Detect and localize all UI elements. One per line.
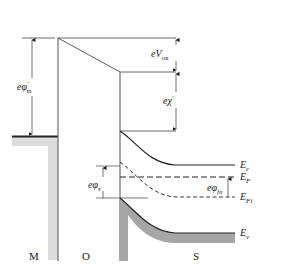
fermi-potential-dimension: eφfn — [207, 179, 228, 197]
valence-band-fill — [120, 198, 235, 261]
metal-fill — [12, 137, 58, 260]
mos-band-diagram: eφ′m eVox eχ′ — [0, 0, 288, 271]
oxide-region-label: O — [82, 250, 90, 262]
conduction-band-edge — [120, 131, 235, 165]
fermi-potential-label: eφfn — [207, 182, 223, 196]
surface-potential-dimension: eφs — [87, 166, 148, 198]
intrinsic-level-label: EFi — [239, 191, 252, 205]
oxide-voltage-dimension: eVox — [150, 40, 180, 70]
oxide-conduction-edge — [58, 38, 120, 72]
fermi-level-label: EF — [239, 171, 251, 185]
valence-band-label: Ev — [239, 227, 250, 241]
semiconductor-region-label: S — [193, 250, 199, 262]
metal-region — [12, 38, 58, 261]
oxide-region — [58, 38, 120, 261]
metal-work-function-dimension: eφ′m — [14, 38, 55, 134]
metal-region-label: M — [29, 250, 39, 262]
electron-affinity-dimension: eχ′ — [160, 74, 182, 129]
